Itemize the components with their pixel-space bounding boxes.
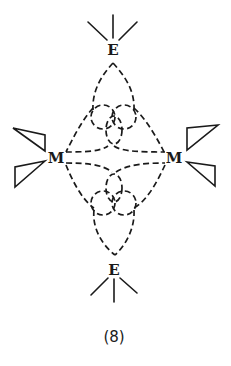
left-m-label: M	[48, 149, 65, 167]
bottom-e-bond-right	[120, 278, 137, 293]
lower-m-m-bond	[66, 163, 165, 172]
figure-caption: (8)	[103, 328, 124, 346]
chemical-structure-diagram: E E M M (8)	[0, 0, 231, 366]
top-e-bond-left	[88, 22, 107, 40]
lower-right-lobe	[134, 165, 165, 208]
upper-left-lobe	[66, 108, 93, 152]
right-m-label: M	[166, 149, 183, 167]
bottom-teardrop-orbital	[94, 210, 134, 255]
right-m-upper-wedge	[187, 125, 218, 150]
top-e-bond-right	[119, 22, 137, 40]
lower-left-lobe	[66, 165, 94, 208]
top-teardrop-orbital	[93, 63, 134, 110]
left-m-upper-wedge	[13, 128, 45, 151]
upper-right-lobe	[134, 108, 164, 152]
bottom-e-group: E	[91, 261, 137, 302]
right-m-group: M	[166, 125, 218, 186]
top-e-label: E	[107, 41, 118, 59]
bottom-e-label: E	[108, 261, 119, 279]
bottom-e-bond-left	[91, 278, 108, 295]
top-e-group: E	[88, 15, 137, 59]
upper-m-m-bond	[66, 146, 165, 152]
left-m-lower-wedge	[15, 161, 45, 187]
left-m-group: M	[13, 128, 64, 187]
right-m-lower-wedge	[187, 162, 215, 186]
